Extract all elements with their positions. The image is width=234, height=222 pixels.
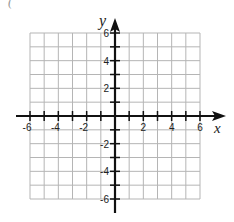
x-axis-label: x: [213, 120, 221, 136]
y-tick-label: 6: [103, 28, 109, 39]
x-tick-label: 6: [197, 122, 203, 133]
x-tick-label: 4: [169, 122, 175, 133]
y-tick-label: -2: [100, 139, 109, 150]
y-tick-label: 4: [103, 56, 109, 67]
y-tick-label: -6: [100, 194, 109, 205]
y-tick-label: 2: [103, 83, 109, 94]
y-axis-label: y: [97, 12, 107, 30]
x-tick-label: -2: [79, 122, 88, 133]
x-tick-label: -6: [23, 122, 32, 133]
coordinate-plane: -6-4-2246-6-4-2246 x y: [0, 0, 234, 222]
x-tick-label: -4: [51, 122, 60, 133]
y-tick-label: -4: [100, 166, 109, 177]
x-tick-label: 2: [141, 122, 147, 133]
